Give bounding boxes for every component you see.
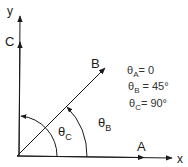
vector-a-label: A [137, 139, 146, 154]
x-axis-label: x [177, 152, 183, 166]
vector-c-label: C [5, 34, 14, 49]
vector-b-label: B [91, 56, 100, 71]
equation-theta-c: θC= 90° [129, 97, 167, 112]
vector-c [19, 42, 20, 156]
theta-b-label: θB [98, 115, 111, 133]
equation-theta-a: θA= 0 [127, 64, 154, 79]
vector-b [17, 68, 105, 156]
y-axis-label: y [7, 4, 13, 18]
theta-c-label: θC [58, 124, 72, 142]
equation-theta-b: θB = 45° [128, 80, 169, 95]
